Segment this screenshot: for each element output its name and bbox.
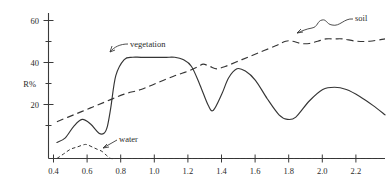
annotation-label-water: water xyxy=(119,134,138,144)
series-soil-line xyxy=(57,39,385,122)
y-tick-label-20: 20 xyxy=(31,100,40,110)
annotation-label-vegetation: vegetation xyxy=(130,39,166,49)
y-tick-label-40: 40 xyxy=(31,58,40,68)
annotation-leader-soil xyxy=(297,19,353,33)
annotation-leader-water xyxy=(103,140,117,148)
series-vegetation-line xyxy=(57,57,385,142)
annotation-vegetation: vegetation xyxy=(110,39,166,52)
x-axis: 0.4 0.6 0.8 1.0 1.2 1.4 1.6 1.8 2.0 2.2 xyxy=(48,155,385,177)
annotation-water: water xyxy=(103,134,138,148)
chart-figure: 60 40 20 R% 0.4 0.6 0.8 1.0 1.2 1.4 1.6 … xyxy=(0,0,391,183)
annotation-label-soil: soil xyxy=(355,13,368,23)
x-tick-label-0-8: 0.8 xyxy=(115,166,126,176)
x-tick-label-1-2: 1.2 xyxy=(183,166,194,176)
x-tick-label-1-4: 1.4 xyxy=(216,166,227,176)
x-tick-label-1-0: 1.0 xyxy=(149,166,160,176)
y-tick-label-60: 60 xyxy=(31,16,40,26)
x-tick-label-1-6: 1.6 xyxy=(250,166,261,176)
reflectance-spectra-chart: 60 40 20 R% 0.4 0.6 0.8 1.0 1.2 1.4 1.6 … xyxy=(0,0,391,183)
annotation-soil: soil xyxy=(297,13,368,33)
y-axis: 60 40 20 R% xyxy=(23,13,53,159)
x-tick-label-1-8: 1.8 xyxy=(283,166,294,176)
x-tick-label-0-6: 0.6 xyxy=(82,166,93,176)
x-tick-label-2-2: 2.2 xyxy=(351,166,362,176)
x-tick-label-0-4: 0.4 xyxy=(48,166,59,176)
y-axis-title: R% xyxy=(23,79,36,89)
x-tick-label-2-0: 2.0 xyxy=(317,166,328,176)
